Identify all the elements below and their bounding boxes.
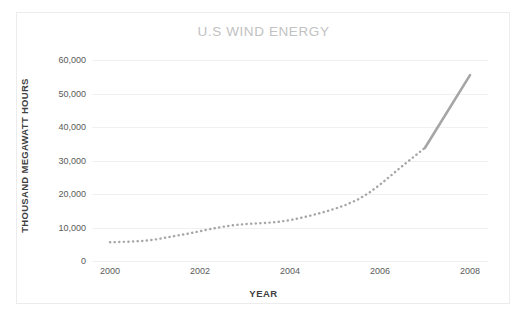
y-tick-label: 50,000 xyxy=(30,89,86,99)
chart-container: U.S WIND ENERGY THOUSAND MEGAWATT HOURS … xyxy=(0,0,527,336)
y-tick-label: 60,000 xyxy=(30,55,86,65)
x-axis-tick-labels: 20002002200420062008 xyxy=(92,266,488,284)
x-tick-label: 2006 xyxy=(370,266,390,276)
y-tick-label: 10,000 xyxy=(30,223,86,233)
chart-title: U.S WIND ENERGY xyxy=(0,24,527,39)
data-series-layer xyxy=(92,60,488,261)
y-axis-tick-labels: 60,00050,00040,00030,00020,00010,0000 xyxy=(30,60,86,261)
x-axis-title: YEAR xyxy=(0,288,527,299)
y-axis-title: THOUSAND MEGAWATT HOURS xyxy=(19,71,30,241)
x-tick-label: 2008 xyxy=(460,266,480,276)
y-tick-label: 20,000 xyxy=(30,189,86,199)
gridline xyxy=(92,261,488,262)
plot-area xyxy=(92,60,488,261)
x-tick-label: 2004 xyxy=(280,266,300,276)
y-tick-label: 40,000 xyxy=(30,122,86,132)
y-tick-label: 30,000 xyxy=(30,156,86,166)
series-line-dotted xyxy=(110,148,425,242)
series-line-solid xyxy=(425,75,470,148)
x-tick-label: 2000 xyxy=(100,266,120,276)
y-tick-label: 0 xyxy=(30,256,86,266)
x-tick-label: 2002 xyxy=(190,266,210,276)
